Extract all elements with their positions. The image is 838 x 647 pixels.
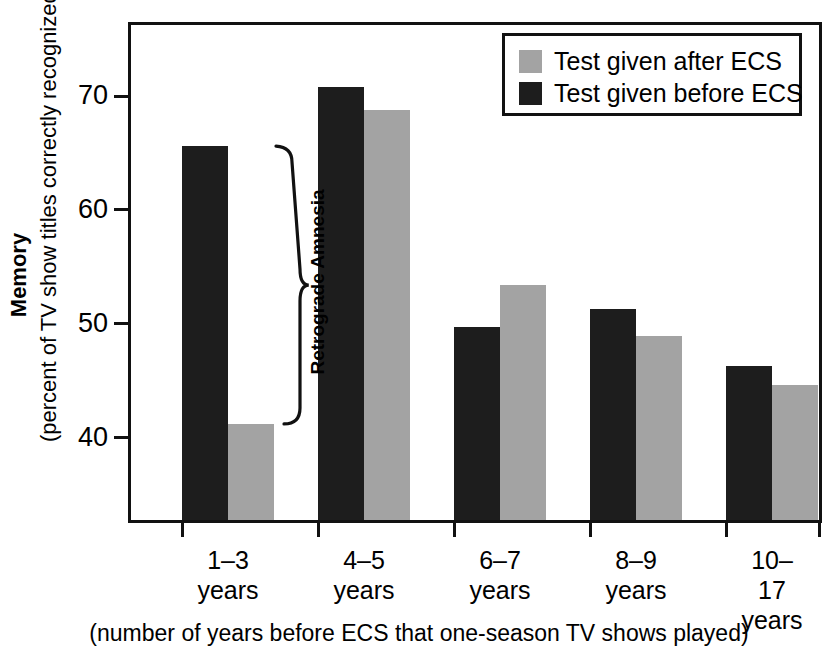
legend-item-before-ecs: Test given before ECS [519,77,799,109]
x-tick-mark-1 [317,523,320,537]
bar-1-3-years-after-ecs [228,424,274,520]
x-axis-caption: (number of years before ECS that one-sea… [0,620,838,647]
legend-item-after-ecs: Test given after ECS [519,45,799,77]
x-group-label-6-7-years: 6–7 years [469,545,530,605]
bar-10-17-years-before-ecs [726,366,772,520]
legend-label-before-ecs: Test given before ECS [554,80,803,106]
legend-label-after-ecs: Test given after ECS [554,48,782,74]
y-tick-label: 40 [78,422,108,452]
x-tick-mark-end [818,523,821,537]
y-tick-label: 50 [78,308,108,338]
chart-legend: Test given after ECS Test given before E… [502,33,802,116]
bar-10-17-years-after-ecs [772,385,818,520]
y-tick-mark [114,322,128,325]
x-tick-mark-3 [589,523,592,537]
y-axis-title-sub: (percent of TV show titles correctly rec… [36,0,62,453]
x-group-label-8-9-years: 8–9 years [605,545,666,605]
legend-swatch-gray-icon [519,50,542,73]
y-axis-title-main: Memory [6,135,32,415]
bar-6-7-years-before-ecs [454,327,500,520]
x-tick-mark-4 [725,523,728,537]
bar-8-9-years-after-ecs [636,336,682,520]
x-group-label-4-5-years: 4–5 years [333,545,394,605]
x-group-label-1-3-years: 1–3 years [197,545,258,605]
bar-4-5-years-after-ecs [364,110,410,520]
y-tick-mark [114,95,128,98]
y-tick-label: 60 [78,194,108,224]
legend-swatch-dark-icon [519,82,542,105]
y-tick-mark [114,436,128,439]
x-tick-mark-2 [453,523,456,537]
bar-8-9-years-before-ecs [590,309,636,520]
y-tick-mark [114,208,128,211]
y-tick-label: 70 [78,80,108,110]
x-axis: 1–3 years4–5 years6–7 years8–9 years10–1… [0,523,838,624]
bar-6-7-years-after-ecs [500,285,546,520]
bar-1-3-years-before-ecs [182,146,228,520]
x-tick-mark-0 [181,523,184,537]
bar-4-5-years-before-ecs [318,87,364,520]
